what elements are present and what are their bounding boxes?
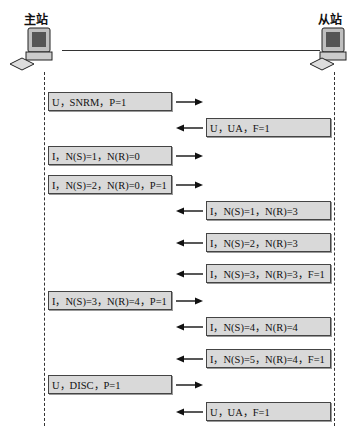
arrow-right-icon bbox=[176, 297, 203, 305]
arrow-right-icon bbox=[176, 98, 203, 106]
frame-box: I，N(S)=1，N(R)=0 bbox=[48, 146, 172, 165]
frame-box: U，UA，F=1 bbox=[206, 118, 331, 137]
frame-box: I，N(S)=3，N(R)=3，F=1 bbox=[206, 264, 331, 283]
frame-box: I，N(S)=2，N(R)=0，P=1 bbox=[48, 175, 172, 194]
frame-box: U，DISC，P=1 bbox=[48, 375, 172, 394]
frame-box: I，N(S)=4，N(R)=4 bbox=[206, 317, 331, 336]
arrow-left-icon bbox=[176, 408, 203, 416]
primary-computer-icon bbox=[8, 26, 56, 72]
arrow-right-icon bbox=[176, 181, 203, 189]
frame-box: U，SNRM，P=1 bbox=[48, 92, 172, 111]
frame-box: I，N(S)=5，N(R)=4，F=1 bbox=[206, 349, 331, 368]
arrow-left-icon bbox=[176, 323, 203, 331]
arrow-left-icon bbox=[176, 207, 203, 215]
primary-station-label: 主站 bbox=[24, 10, 48, 27]
secondary-station-label: 从站 bbox=[318, 10, 342, 27]
arrow-left-icon bbox=[176, 124, 203, 132]
primary-lifeline bbox=[44, 72, 45, 426]
arrow-right-icon bbox=[176, 152, 203, 160]
arrow-right-icon bbox=[176, 381, 203, 389]
frame-box: I，N(S)=2，N(R)=3 bbox=[206, 233, 331, 252]
arrow-left-icon bbox=[176, 270, 203, 278]
frame-box: U，UA，F=1 bbox=[206, 402, 331, 421]
frame-box: I，N(S)=3，N(R)=4，P=1 bbox=[48, 291, 172, 310]
arrow-left-icon bbox=[176, 239, 203, 247]
arrow-left-icon bbox=[176, 355, 203, 363]
frame-box: I，N(S)=1，N(R)=3 bbox=[206, 201, 331, 220]
secondary-computer-icon bbox=[308, 26, 356, 72]
secondary-lifeline bbox=[334, 72, 335, 426]
connection-line bbox=[62, 50, 320, 51]
